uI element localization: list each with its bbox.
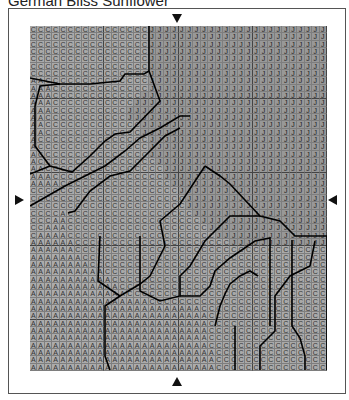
grid-cell: J [208, 143, 215, 150]
grid-cell: C [60, 129, 67, 136]
grid-cell: C [186, 224, 193, 231]
grid-cell: A [97, 298, 104, 305]
grid-cell: C [60, 70, 67, 77]
grid-cell: J [216, 114, 223, 121]
grid-cell: C [141, 26, 148, 33]
grid-cell: C [216, 261, 223, 268]
grid-cell: J [320, 77, 327, 84]
grid-cell: C [282, 290, 289, 297]
grid-cell: C [60, 202, 67, 209]
grid-cell: C [67, 232, 74, 239]
grid-cell: A [179, 320, 186, 327]
grid-cell: J [201, 107, 208, 114]
grid-cell: C [282, 327, 289, 334]
grid-cell: C [52, 26, 59, 33]
grid-cell: C [230, 261, 237, 268]
grid-cell: C [37, 26, 44, 33]
grid-cell: C [208, 327, 215, 334]
grid-cell: J [193, 63, 200, 70]
grid-cell: C [104, 48, 111, 55]
grid-cell: C [179, 254, 186, 261]
grid-cell: A [186, 342, 193, 349]
grid-cell: J [305, 151, 312, 158]
grid-cell: C [320, 305, 327, 312]
grid-cell: A [75, 356, 82, 363]
grid-cell: C [104, 121, 111, 128]
grid-cell: C [245, 349, 252, 356]
grid-cell: A [37, 356, 44, 363]
grid-cell: C [297, 246, 304, 253]
grid-cell: C [312, 364, 319, 371]
grid-cell: J [320, 85, 327, 92]
grid-cell: C [127, 55, 134, 62]
grid-cell: A [67, 305, 74, 312]
grid-cell: A [112, 305, 119, 312]
grid-cell: C [67, 121, 74, 128]
grid-cell: C [37, 143, 44, 150]
grid-cell: C [104, 217, 111, 224]
grid-cell: C [52, 55, 59, 62]
grid-cell: A [112, 334, 119, 341]
grid-cell: C [119, 99, 126, 106]
grid-cell: C [223, 290, 230, 297]
grid-cell: C [186, 239, 193, 246]
grid-cell: C [164, 195, 171, 202]
grid-cell: J [268, 158, 275, 165]
grid-cell: A [171, 364, 178, 371]
grid-cell: J [216, 224, 223, 231]
grid-cell: J [223, 114, 230, 121]
grid-cell: A [193, 312, 200, 319]
grid-cell: A [37, 320, 44, 327]
grid-cell: C [104, 41, 111, 48]
grid-cell: J [320, 239, 327, 246]
grid-cell: J [253, 187, 260, 194]
grid-cell: C [312, 298, 319, 305]
grid-cell: C [127, 268, 134, 275]
grid-cell: C [201, 276, 208, 283]
grid-cell: J [275, 70, 282, 77]
grid-cell: J [186, 55, 193, 62]
grid-cell: C [112, 254, 119, 261]
grid-cell: C [268, 254, 275, 261]
grid-cell: C [268, 298, 275, 305]
grid-cell: C [45, 195, 52, 202]
grid-cell: C [104, 107, 111, 114]
grid-cell: C [268, 334, 275, 341]
grid-cell: J [216, 121, 223, 128]
grid-cell: A [127, 327, 134, 334]
grid-cell: J [245, 217, 252, 224]
grid-cell: J [297, 239, 304, 246]
grid-cell: A [156, 364, 163, 371]
grid-cell: C [119, 268, 126, 275]
grid-cell: A [60, 246, 67, 253]
grid-cell: J [268, 92, 275, 99]
grid-cell: C [253, 356, 260, 363]
grid-cell: C [67, 180, 74, 187]
grid-cell: C [127, 217, 134, 224]
grid-cell: C [171, 261, 178, 268]
grid-cell: A [45, 254, 52, 261]
grid-cell: A [82, 364, 89, 371]
grid-cell: C [89, 63, 96, 70]
grid-cell: J [297, 210, 304, 217]
grid-cell: C [112, 276, 119, 283]
grid-cell: C [312, 342, 319, 349]
grid-cell: C [149, 224, 156, 231]
grid-cell: J [297, 165, 304, 172]
grid-cell: C [119, 55, 126, 62]
grid-cell: C [75, 202, 82, 209]
grid-cell: A [149, 327, 156, 334]
grid-cell: J [312, 77, 319, 84]
grid-cell: J [268, 48, 275, 55]
grid-cell: J [230, 99, 237, 106]
grid-cell: C [119, 195, 126, 202]
grid-cell: J [245, 158, 252, 165]
grid-cell: J [297, 180, 304, 187]
grid-cell: C [297, 312, 304, 319]
grid-cell: A [60, 334, 67, 341]
grid-cell: A [75, 261, 82, 268]
grid-cell: A [52, 276, 59, 283]
grid-cell: J [320, 210, 327, 217]
grid-cell: A [134, 356, 141, 363]
grid-cell: J [149, 121, 156, 128]
